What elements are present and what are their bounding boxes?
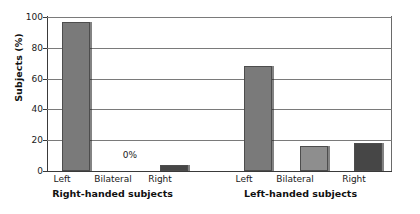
y-tick-100: 100 <box>13 13 43 22</box>
gridline-40 <box>47 109 392 110</box>
bar-right-handed-left <box>62 22 90 171</box>
y-tick-mark-80 <box>43 48 47 49</box>
x-label-left-handed-left: Left <box>224 174 264 184</box>
gridline-20 <box>47 140 392 141</box>
y-tick-mark-0 <box>43 171 47 172</box>
y-tick-mark-20 <box>43 140 47 141</box>
group-label-left-handed: Left-handed subjects <box>228 188 373 199</box>
plot-area: 0% <box>47 17 392 171</box>
y-tick-80: 80 <box>13 44 43 53</box>
y-axis-tick-labels: 100 80 60 40 20 0 <box>12 17 43 171</box>
y-tick-mark-60 <box>43 79 47 80</box>
data-label-right-handed-bilateral: 0% <box>110 150 150 160</box>
y-tick-mark-40 <box>43 109 47 110</box>
bar-chart-figure: Subjects (%) 100 80 60 40 20 0 0% Left B… <box>0 0 420 214</box>
x-label-right-handed-bilateral: Bilateral <box>83 174 143 184</box>
y-tick-60: 60 <box>13 75 43 84</box>
x-label-left-handed-bilateral: Bilateral <box>265 174 325 184</box>
bar-left-handed-bilateral <box>300 146 328 171</box>
gridline-80 <box>47 48 392 49</box>
x-label-left-handed-right: Right <box>334 174 374 184</box>
y-tick-0: 0 <box>13 167 43 176</box>
gridline-60 <box>47 79 392 80</box>
bar-left-handed-right <box>354 143 382 171</box>
group-label-right-handed: Right-handed subjects <box>40 188 185 199</box>
bar-right-handed-right <box>160 165 188 171</box>
gridline-100 <box>47 17 392 18</box>
y-tick-20: 20 <box>13 136 43 145</box>
y-tick-mark-100 <box>43 17 47 18</box>
x-axis-line <box>47 171 392 172</box>
bar-left-handed-left <box>244 66 272 171</box>
y-tick-40: 40 <box>13 105 43 114</box>
x-label-right-handed-left: Left <box>42 174 82 184</box>
x-label-right-handed-right: Right <box>140 174 180 184</box>
